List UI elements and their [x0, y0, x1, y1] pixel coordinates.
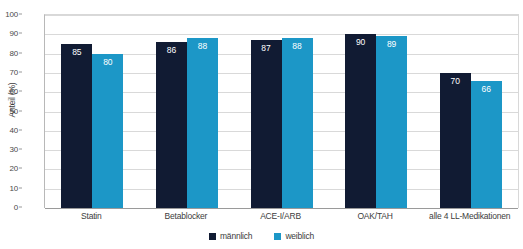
bar-value-label: 86 [156, 45, 187, 55]
y-tick-mark [19, 91, 22, 92]
bar-value-label: 70 [440, 76, 471, 86]
legend-label: weiblich [285, 231, 314, 241]
y-tick-label: 90 [0, 29, 18, 38]
x-axis-labels: StatinBetablockerACE-I/ARBOAK/TAHalle 4 … [44, 211, 517, 227]
y-tick-mark [19, 187, 22, 188]
y-tick-label: 100 [0, 10, 18, 19]
bar-group: 8580 [61, 15, 123, 208]
x-tick-label: Betablocker [165, 211, 208, 221]
y-tick-label: 30 [0, 145, 18, 154]
bar[interactable]: 88 [282, 38, 313, 208]
bar[interactable]: 85 [61, 44, 92, 208]
x-tick-label: OAK/TAH [357, 211, 392, 221]
y-tick-mark [19, 129, 22, 130]
bar-value-label: 89 [376, 39, 407, 49]
y-tick-label: 20 [0, 164, 18, 173]
bar[interactable]: 90 [345, 34, 376, 208]
bar-group: 7066 [440, 15, 502, 208]
bar-group: 8788 [251, 15, 313, 208]
y-tick-mark [19, 149, 22, 150]
bar[interactable]: 80 [92, 54, 123, 208]
y-tick-mark [19, 110, 22, 111]
bar-value-label: 87 [251, 43, 282, 53]
x-tick-label: alle 4 LL-Medikationen [429, 211, 510, 221]
bar[interactable]: 88 [187, 38, 218, 208]
bar[interactable]: 89 [376, 36, 407, 208]
bar-value-label: 66 [471, 84, 502, 94]
bars-layer: 85808688878890897066 [45, 15, 518, 208]
legend-label: männlich [220, 231, 252, 241]
gridline [45, 208, 518, 209]
bar[interactable]: 86 [156, 42, 187, 208]
y-tick-label: 60 [0, 87, 18, 96]
bar-group: 9089 [345, 15, 407, 208]
bar-value-label: 88 [282, 41, 313, 51]
y-tick-mark [19, 52, 22, 53]
y-tick-label: 0 [0, 203, 18, 212]
bar[interactable]: 66 [471, 81, 502, 208]
bar-value-label: 80 [92, 57, 123, 67]
y-axis-ticks: 0102030405060708090100 [0, 0, 44, 249]
legend-swatch-icon [209, 233, 216, 240]
y-tick-label: 80 [0, 48, 18, 57]
legend-item[interactable]: männlich [209, 231, 252, 241]
bar-group: 8688 [156, 15, 218, 208]
bar-value-label: 90 [345, 37, 376, 47]
bar-chart: Anteil (%) 0102030405060708090100 858086… [0, 0, 523, 249]
legend: männlichweiblich [0, 231, 523, 241]
x-tick-label: Statin [81, 211, 102, 221]
plot-area: 85808688878890897066 [44, 14, 519, 208]
y-tick-mark [19, 168, 22, 169]
y-tick-label: 10 [0, 183, 18, 192]
legend-item[interactable]: weiblich [274, 231, 314, 241]
bar[interactable]: 70 [440, 73, 471, 208]
y-tick-mark [19, 207, 22, 208]
y-tick-label: 50 [0, 106, 18, 115]
y-tick-label: 70 [0, 67, 18, 76]
legend-swatch-icon [274, 233, 281, 240]
y-tick-mark [19, 71, 22, 72]
x-tick-label: ACE-I/ARB [260, 211, 301, 221]
y-tick-mark [19, 14, 22, 15]
bar[interactable]: 87 [251, 40, 282, 208]
bar-value-label: 85 [61, 47, 92, 57]
bar-value-label: 88 [187, 41, 218, 51]
y-tick-label: 40 [0, 125, 18, 134]
y-tick-mark [19, 33, 22, 34]
